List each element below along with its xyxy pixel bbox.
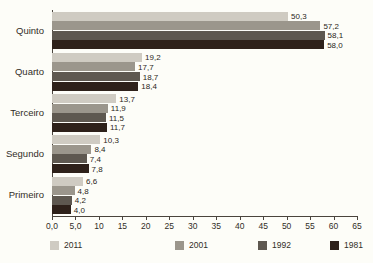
bar-1981-segundo <box>52 164 89 173</box>
x-tick-label: 45 <box>258 221 267 231</box>
bar-value-label: 13,7 <box>116 94 135 103</box>
x-tick <box>357 216 358 220</box>
bar-row: 8,4 <box>52 145 357 154</box>
bar-row: 6,6 <box>52 177 357 186</box>
bar-row: 17,7 <box>52 62 357 71</box>
bar-value-label: 17,7 <box>135 62 154 71</box>
bar-1992-segundo <box>52 154 87 163</box>
x-tick <box>287 216 288 220</box>
x-tick-label: 40 <box>235 221 244 231</box>
x-tick-label: 5,0 <box>70 221 82 231</box>
bar-row: 50,3 <box>52 12 357 21</box>
bar-row: 19,2 <box>52 53 357 62</box>
bar-row: 11,5 <box>52 113 357 122</box>
bar-2011-terceiro <box>52 94 116 103</box>
x-tick <box>169 216 170 220</box>
category-axis-labels: QuintoQuartoTerceiroSegundoPrimeiro <box>0 10 48 216</box>
x-tick-label: 20 <box>141 221 150 231</box>
bar-row: 57,2 <box>52 21 357 30</box>
x-tick <box>52 216 53 220</box>
bar-value-label: 18,7 <box>140 72 159 81</box>
legend-label: 2001 <box>189 240 208 250</box>
bar-value-label: 7,8 <box>89 164 103 173</box>
category-label-terceiro: Terceiro <box>10 107 44 118</box>
bar-1992-quarto <box>52 72 140 81</box>
bar-group: 50,357,258,158,0 <box>52 12 357 50</box>
chart-legend: 2011200119921981 <box>0 240 373 256</box>
bar-value-label: 11,9 <box>108 104 126 113</box>
bar-2011-segundo <box>52 135 100 144</box>
x-tick <box>240 216 241 220</box>
x-tick-label: 65 <box>352 221 361 231</box>
bar-group: 19,217,718,718,4 <box>52 53 357 91</box>
bar-row: 58,0 <box>52 40 357 49</box>
bar-value-label: 50,3 <box>288 12 307 21</box>
bar-value-label: 11,5 <box>106 113 124 122</box>
legend-label: 1992 <box>272 240 291 250</box>
bar-1992-primeiro <box>52 196 72 205</box>
x-tick-label: 60 <box>329 221 338 231</box>
x-tick <box>334 216 335 220</box>
bar-row: 4,8 <box>52 186 357 195</box>
bar-row: 4,2 <box>52 196 357 205</box>
bar-2011-quarto <box>52 53 142 62</box>
bar-1981-primeiro <box>52 205 71 214</box>
bar-row: 11,9 <box>52 104 357 113</box>
bar-value-label: 4,8 <box>75 186 89 195</box>
bar-row: 18,4 <box>52 82 357 91</box>
x-tick <box>122 216 123 220</box>
x-tick-label: 15 <box>118 221 127 231</box>
legend-item-2011[interactable]: 2011 <box>50 240 82 250</box>
bar-2001-primeiro <box>52 186 75 195</box>
legend-swatch-icon <box>330 241 339 250</box>
legend-item-2001[interactable]: 2001 <box>175 240 208 250</box>
bar-row: 18,7 <box>52 72 357 81</box>
bar-value-label: 57,2 <box>320 21 339 30</box>
bar-1992-terceiro <box>52 113 106 122</box>
x-tick <box>193 216 194 220</box>
bar-group: 13,711,911,511,7 <box>52 94 357 132</box>
bar-value-label: 18,4 <box>138 82 157 91</box>
bar-row: 13,7 <box>52 94 357 103</box>
x-tick <box>263 216 264 220</box>
bar-row: 7,4 <box>52 154 357 163</box>
category-label-primeiro: Primeiro <box>9 189 44 200</box>
x-tick <box>216 216 217 220</box>
legend-label: 2011 <box>64 240 82 250</box>
x-tick <box>146 216 147 220</box>
x-tick-label: 25 <box>165 221 174 231</box>
bar-2001-quarto <box>52 62 135 71</box>
bar-2011-primeiro <box>52 177 83 186</box>
bar-row: 10,3 <box>52 135 357 144</box>
bar-2001-quinto <box>52 21 320 30</box>
legend-item-1981[interactable]: 1981 <box>330 240 363 250</box>
bar-1992-quinto <box>52 31 325 40</box>
bar-value-label: 58,1 <box>325 31 344 40</box>
bar-value-label: 6,6 <box>83 177 97 186</box>
bar-2001-segundo <box>52 145 91 154</box>
category-label-segundo: Segundo <box>6 148 44 159</box>
bar-chart: QuintoQuartoTerceiroSegundoPrimeiro 50,3… <box>0 0 373 263</box>
bar-1981-terceiro <box>52 123 107 132</box>
legend-swatch-icon <box>50 241 59 250</box>
bar-value-label: 4,0 <box>71 205 85 214</box>
legend-swatch-icon <box>175 241 184 250</box>
bar-value-label: 7,4 <box>87 154 101 163</box>
bar-2011-quinto <box>52 12 288 21</box>
bar-row: 58,1 <box>52 31 357 40</box>
x-tick <box>310 216 311 220</box>
bar-1981-quinto <box>52 40 324 49</box>
bar-row: 7,8 <box>52 164 357 173</box>
category-label-quinto: Quinto <box>16 25 44 36</box>
x-tick-label: 50 <box>282 221 291 231</box>
bar-2001-terceiro <box>52 104 108 113</box>
x-tick-label: 10 <box>94 221 103 231</box>
x-tick-label: 55 <box>305 221 314 231</box>
x-tick-label: 30 <box>188 221 197 231</box>
bar-value-label: 11,7 <box>107 123 125 132</box>
legend-swatch-icon <box>258 241 267 250</box>
legend-label: 1981 <box>344 240 363 250</box>
x-axis-line <box>52 216 357 217</box>
bar-value-label: 10,3 <box>100 135 119 144</box>
legend-item-1992[interactable]: 1992 <box>258 240 291 250</box>
